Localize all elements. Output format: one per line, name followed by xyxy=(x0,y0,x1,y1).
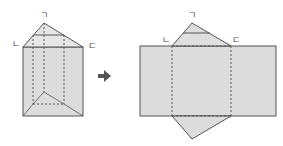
prism-net xyxy=(140,23,276,139)
net-rectangle-strip xyxy=(140,46,276,116)
triangular-prism xyxy=(23,23,83,116)
prism-label-right: ㄷ xyxy=(88,42,96,51)
net-label-left: ㄴ xyxy=(162,36,170,45)
net-label-apex: ㄱ xyxy=(188,11,196,20)
prism-label-left: ㄴ xyxy=(12,40,20,49)
net-top-triangle xyxy=(172,23,231,46)
arrow-icon xyxy=(98,70,111,82)
net-label-right: ㄷ xyxy=(232,36,240,45)
diagram-canvas xyxy=(0,0,283,146)
net-bottom-triangle xyxy=(172,116,231,139)
prism-label-apex: ㄱ xyxy=(40,11,48,20)
